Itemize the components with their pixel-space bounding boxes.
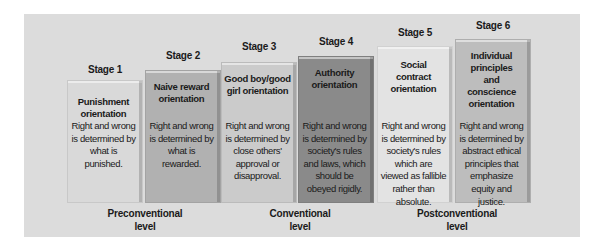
stage-5-label: Stage 5 xyxy=(377,27,453,38)
stage-2-label: Stage 2 xyxy=(145,50,221,61)
level-conventional: Conventional level xyxy=(262,207,338,233)
level-preconventional: Preconventional level xyxy=(105,207,185,233)
level-preconventional-line2: level xyxy=(105,220,185,233)
stage-1-description: Right and wrong is determined by what is… xyxy=(70,120,137,170)
stage-4-label: Stage 4 xyxy=(298,36,374,47)
stage-6-label: Stage 6 xyxy=(455,20,531,31)
stage-6-description: Right and wrong is determined by abstrac… xyxy=(458,120,525,208)
stage-3-description: Right and wrong is determined by close o… xyxy=(224,120,291,183)
stage-5-title: Social contract orientation xyxy=(388,59,439,95)
stage-3-title: Good boy/good girl orientation xyxy=(224,73,291,97)
stage-2-description: Right and wrong is determined by what is… xyxy=(148,120,215,170)
stage-1-label: Stage 1 xyxy=(67,64,143,75)
stage-2-box: Naive reward orientation Right and wrong… xyxy=(145,70,221,203)
level-conventional-line1: Conventional xyxy=(262,207,338,220)
level-postconventional: Postconventional level xyxy=(412,207,502,233)
stage-4-description: Right and wrong is determined by society… xyxy=(301,120,368,196)
stage-3-box: Good boy/good girl orientation Right and… xyxy=(221,62,297,203)
level-postconventional-line1: Postconventional xyxy=(412,207,502,220)
stage-4-box: Authority orientation Right and wrong is… xyxy=(298,56,374,203)
stage-1-title: Punishment orientation xyxy=(76,96,131,120)
stage-3-label: Stage 3 xyxy=(221,41,297,52)
level-conventional-line2: level xyxy=(262,220,338,233)
stage-4-title: Authority orientation xyxy=(307,67,362,91)
level-postconventional-line2: level xyxy=(412,220,502,233)
stage-5-description: Right and wrong is determined by society… xyxy=(380,120,447,208)
stage-5-box: Social contract orientation Right and wr… xyxy=(377,46,453,203)
stage-6-box: Individual principles and conscience ori… xyxy=(455,39,531,203)
level-preconventional-line1: Preconventional xyxy=(105,207,185,220)
stage-2-title: Naive reward orientation xyxy=(152,81,211,105)
stage-6-title: Individual principles and conscience ori… xyxy=(462,50,521,110)
stage-1-box: Punishment orientation Right and wrong i… xyxy=(67,80,143,203)
